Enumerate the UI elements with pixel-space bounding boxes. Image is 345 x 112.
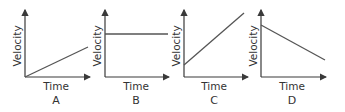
- x-axis-label: Time: [278, 80, 305, 92]
- y-axis-label: Velocity: [247, 25, 259, 66]
- velocity-line: [261, 25, 325, 60]
- y-axis-label: Velocity: [11, 25, 23, 66]
- graph-b: Velocity Time B: [91, 10, 169, 107]
- x-axis-label: Time: [200, 80, 227, 92]
- graph-d: Velocity Time D: [247, 10, 326, 107]
- velocity-line: [25, 47, 88, 77]
- y-axis-label: Velocity: [170, 25, 182, 66]
- velocity-time-graphs: Velocity Time A Velocity Time B Velocity…: [0, 0, 345, 112]
- graph-letter: C: [210, 94, 218, 107]
- graph-letter: A: [52, 94, 60, 107]
- graph-letter: D: [288, 94, 296, 107]
- velocity-line: [184, 13, 244, 65]
- graph-c: Velocity Time C: [170, 10, 248, 107]
- graph-letter: B: [132, 94, 140, 107]
- x-axis-label: Time: [122, 80, 149, 92]
- y-axis-label: Velocity: [91, 25, 103, 66]
- x-axis-label: Time: [42, 80, 69, 92]
- graph-a: Velocity Time A: [11, 10, 90, 107]
